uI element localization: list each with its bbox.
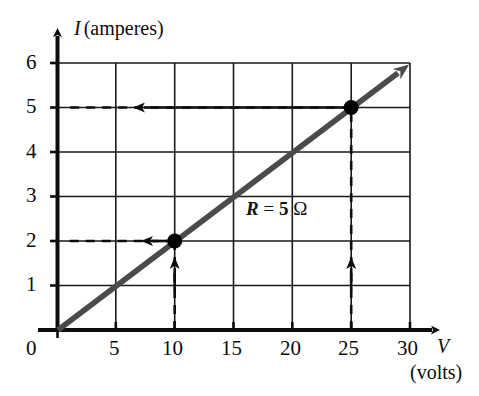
resistance-annotation: R = 5 Ω <box>246 199 307 218</box>
y-tick-label-3: 3 <box>26 185 37 206</box>
equals-sign: = <box>263 198 274 219</box>
y-tick-label-2: 2 <box>26 230 37 251</box>
resistance-value: 5 <box>279 198 289 219</box>
x-tick-label-10: 10 <box>162 338 183 359</box>
x-axis-symbol: V <box>437 336 449 357</box>
y-tick-label-6: 6 <box>26 52 37 73</box>
x-axis-unit: (volts) <box>410 362 462 383</box>
x-tick-label-25: 25 <box>338 338 359 359</box>
y-tick-label-1: 1 <box>26 274 37 295</box>
x-tick-label-30: 30 <box>397 338 418 359</box>
y-axis-title: I(amperes) <box>74 18 164 39</box>
x-tick-label-5: 5 <box>109 338 120 359</box>
data-point-10-2 <box>167 234 182 249</box>
y-tick-label-5: 5 <box>26 96 37 117</box>
data-point-25-5 <box>344 100 359 115</box>
ohms-law-graph-figure: 6 5 4 3 2 1 0 5 10 15 20 25 30 I(amperes… <box>0 0 479 396</box>
x-tick-label-20: 20 <box>280 338 301 359</box>
y-axis-unit: (amperes) <box>84 17 164 39</box>
x-tick-label-15: 15 <box>221 338 242 359</box>
y-axis-symbol: I <box>74 17 84 39</box>
y-tick-label-4: 4 <box>26 141 37 162</box>
x-tick-label-0: 0 <box>26 338 37 359</box>
resistance-symbol: R <box>246 198 259 219</box>
ohm-unit-icon: Ω <box>293 198 307 219</box>
